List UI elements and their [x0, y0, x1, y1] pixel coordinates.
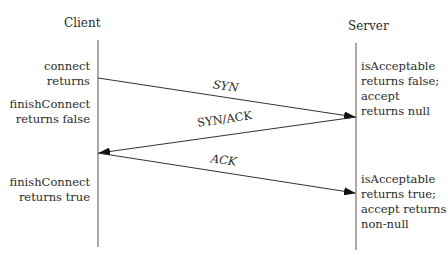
client-note-finish-true: finishConnect returns true: [10, 175, 90, 205]
note-line: connect: [44, 59, 90, 74]
note-line: returns true;: [361, 187, 446, 202]
note-line: finishConnect: [10, 97, 90, 112]
note-line: returns true: [10, 190, 90, 205]
server-note-false: isAcceptable returns false; accept retur…: [361, 59, 439, 119]
note-line: finishConnect: [10, 175, 90, 190]
note-line: isAcceptable: [361, 59, 439, 74]
note-line: accept: [361, 89, 439, 104]
client-header: Client: [64, 16, 101, 30]
note-line: isAcceptable: [361, 172, 446, 187]
note-line: returns false: [10, 112, 90, 127]
client-note-finish-false: finishConnect returns false: [10, 97, 90, 127]
server-note-true: isAcceptable returns true; accept return…: [361, 172, 446, 232]
client-note-connect: connect returns: [44, 59, 90, 89]
note-line: returns null: [361, 104, 439, 119]
note-line: returns: [44, 74, 90, 89]
note-line: non-null: [361, 217, 446, 232]
note-line: returns false;: [361, 74, 439, 89]
server-header: Server: [348, 19, 389, 33]
note-line: accept returns: [361, 202, 446, 217]
